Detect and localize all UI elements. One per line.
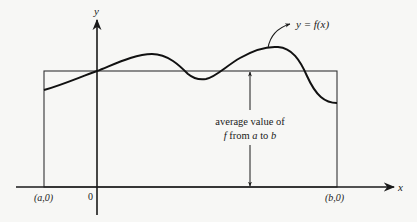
average-label-line2: f from a to b [224, 130, 277, 141]
average-value-diagram: y x 0 (a,0) (b,0) y = f(x) average value… [0, 0, 417, 222]
point-a-label: (a,0) [34, 192, 54, 204]
curve-label: y = f(x) [295, 18, 329, 31]
point-b-label: (b,0) [325, 192, 345, 204]
y-axis-label: y [93, 5, 99, 17]
curve-label-pointer [268, 24, 290, 48]
x-axis-label: x [397, 181, 403, 193]
function-curve [44, 47, 337, 103]
average-value-rectangle [44, 71, 337, 187]
origin-label: 0 [88, 191, 93, 202]
average-label-line1: average value of [215, 116, 285, 127]
